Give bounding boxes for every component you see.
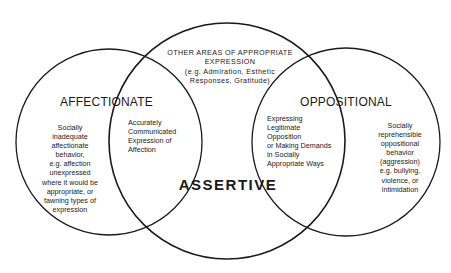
text-line: fawning types of: [36, 196, 104, 205]
text-line: or Making Demands: [267, 141, 339, 150]
text-line: Expressing: [267, 114, 339, 123]
text-line: Communicated: [128, 127, 188, 136]
text-line: intimidation: [370, 185, 430, 194]
text-line: Appropriate Ways: [267, 159, 339, 168]
text-line: behavior: [370, 148, 430, 157]
text-line: Expression of: [128, 136, 188, 145]
top-line-3: (e.g. Admiration, Esthetic: [160, 67, 300, 76]
text-line: behavior,: [36, 150, 104, 159]
text-line: inadequate: [36, 132, 104, 141]
top-region-text: OTHER AREAS OF APPROPRIATE EXPRESSION (e…: [160, 48, 300, 85]
text-line: appropriate, or: [36, 187, 104, 196]
text-line: Socially: [36, 123, 104, 132]
text-line: oppositional: [370, 139, 430, 148]
text-line: Affection: [128, 145, 188, 154]
oppositional-heading: OPPOSITIONAL: [299, 96, 393, 108]
assertive-heading: ASSERTIVE: [176, 177, 280, 192]
text-line: unexpressed: [36, 168, 104, 177]
text-line: in Socially: [267, 150, 339, 159]
oppositional-only-text: Socially reprehensible oppositional beha…: [370, 121, 430, 194]
text-line: Socially: [370, 121, 430, 130]
top-line-1: OTHER AREAS OF APPROPRIATE: [160, 48, 300, 57]
oppositional-assertive-text: Expressing Legitimate Opposition or Maki…: [267, 114, 339, 169]
affectionate-heading: AFFECTIONATE: [58, 96, 155, 108]
text-line: violence, or: [370, 176, 430, 185]
top-line-2: EXPRESSION: [160, 57, 300, 66]
affectionate-only-text: Socially inadequate affectionate behavio…: [36, 123, 104, 214]
text-line: where it would be: [36, 178, 104, 187]
text-line: e.g. bullying,: [370, 166, 430, 175]
text-line: (aggression): [370, 157, 430, 166]
text-line: expression: [36, 205, 104, 214]
top-line-4: Responses, Gratitude): [160, 76, 300, 85]
text-line: e.g. affection: [36, 159, 104, 168]
text-line: Opposition: [267, 132, 339, 141]
text-line: Accurately: [128, 118, 188, 127]
text-line: affectionate: [36, 141, 104, 150]
affectionate-assertive-text: Accurately Communicated Expression of Af…: [128, 118, 188, 154]
text-line: reprehensible: [370, 130, 430, 139]
text-line: Legitimate: [267, 123, 339, 132]
